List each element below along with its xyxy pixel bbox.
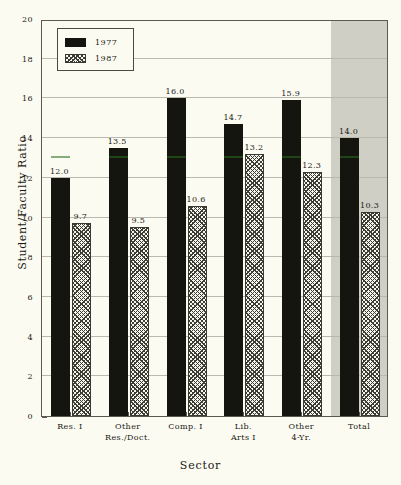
bar-1987-other-res-doct- xyxy=(130,227,149,416)
bar-1977-other-res-doct- xyxy=(109,148,128,416)
y-tick-label: 0 xyxy=(9,412,33,421)
gridline xyxy=(42,256,387,257)
y-tick-mark xyxy=(42,417,47,418)
y-tick-label: 20 xyxy=(9,15,33,24)
y-tick-label: 4 xyxy=(9,333,33,342)
bar-value-label: 13.2 xyxy=(240,143,268,152)
gridline xyxy=(42,137,387,138)
gridline xyxy=(42,296,387,297)
bar-value-label: 13.5 xyxy=(103,137,131,146)
bar-1987-comp-i xyxy=(188,206,207,416)
x-tick-label-line: Total xyxy=(317,421,401,432)
x-tick-mark xyxy=(243,412,244,417)
bar-value-label: 10.6 xyxy=(182,195,210,204)
bar-value-label: 10.3 xyxy=(356,201,384,210)
x-tick-mark xyxy=(128,412,129,417)
y-tick-label: 14 xyxy=(9,134,33,143)
y-tick-label: 8 xyxy=(9,253,33,262)
student-faculty-ratio-bar-chart: Student/Faculty Ratio 02468101214161820 … xyxy=(0,0,401,485)
x-tick-mark xyxy=(186,412,187,417)
bar-1977-comp-i xyxy=(167,98,186,416)
y-tick-label: 12 xyxy=(9,174,33,183)
y-tick-label: 6 xyxy=(9,293,33,302)
bar-value-label: 16.0 xyxy=(161,87,189,96)
y-axis-title: Student/Faculty Ratio xyxy=(16,93,29,313)
legend-swatch-icon-1977 xyxy=(65,38,86,47)
y-tick-label: 18 xyxy=(9,55,33,64)
x-axis-title: Sector xyxy=(0,459,401,472)
legend-swatch-icon-1987 xyxy=(65,54,86,63)
bar-1977-other-4-yr- xyxy=(282,100,301,416)
x-tick-label-total: Total xyxy=(317,421,401,432)
gridline xyxy=(42,336,387,337)
bar-value-label: 12.3 xyxy=(298,161,326,170)
x-tick-label-line: Res./Doct. xyxy=(86,432,170,443)
bar-1987-res-i xyxy=(72,223,91,416)
x-tick-mark xyxy=(301,412,302,417)
legend: 1977 1987 xyxy=(57,28,134,71)
x-tick-mark xyxy=(359,412,360,417)
bar-value-label: 9.5 xyxy=(124,216,152,225)
legend-label-1977: 1977 xyxy=(95,38,117,47)
bar-value-label: 15.9 xyxy=(277,89,305,98)
x-tick-label-line: 4-Yr. xyxy=(259,432,343,443)
y-tick-label: 2 xyxy=(9,372,33,381)
y-tick-label: 10 xyxy=(9,214,33,223)
gridline xyxy=(42,97,387,98)
bar-1987-lib-arts-i xyxy=(245,154,264,416)
bar-1987-total xyxy=(361,212,380,416)
gridline xyxy=(42,375,387,376)
x-tick-mark xyxy=(70,412,71,417)
bar-value-label: 14.0 xyxy=(335,127,363,136)
legend-entry-1977: 1977 xyxy=(65,34,133,50)
scan-artifact-line xyxy=(51,156,70,158)
bar-1977-total xyxy=(340,138,359,416)
legend-label-1987: 1987 xyxy=(95,54,117,63)
bar-value-label: 14.7 xyxy=(219,113,247,122)
bar-value-label: 12.0 xyxy=(45,167,73,176)
y-tick-label: 16 xyxy=(9,94,33,103)
legend-entry-1987: 1987 xyxy=(65,50,133,66)
bar-1977-lib-arts-i xyxy=(224,124,243,416)
gridline xyxy=(42,177,387,178)
bar-1987-other-4-yr- xyxy=(303,172,322,416)
bar-value-label: 9.7 xyxy=(66,212,94,221)
